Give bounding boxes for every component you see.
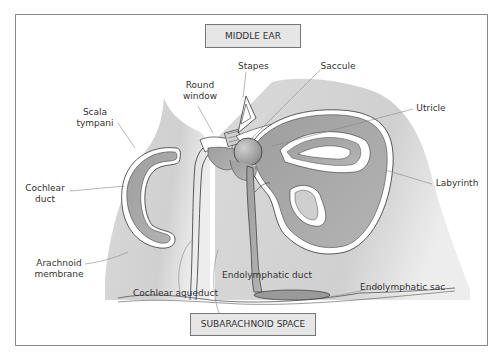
middle-ear-label: MIDDLE EAR — [225, 31, 281, 41]
label-utricle: Utricle — [413, 103, 449, 114]
label-cochlear-aqueduct: Cochlear aqueduct — [133, 288, 213, 299]
label-cochlear-duct: Cochlear duct — [22, 183, 68, 205]
label-stapes: Stapes — [238, 61, 268, 72]
label-endolymphatic-duct: Endolymphatic duct — [222, 270, 312, 281]
endolymphatic-sac-shape — [254, 290, 330, 300]
subarachnoid-space-box: SUBARACHNOID SPACE — [190, 313, 316, 336]
subarachnoid-space-label: SUBARACHNOID SPACE — [201, 319, 305, 329]
middle-ear-box: MIDDLE EAR — [205, 24, 301, 48]
temporal-bone-left — [105, 98, 210, 300]
label-saccule: Saccule — [320, 61, 356, 72]
label-scala-tympani: Scala tympani — [72, 107, 118, 129]
label-round-window: Round window — [180, 80, 220, 102]
label-arachnoid-membrane: Arachnoid membrane — [34, 258, 84, 280]
label-labyrinth: Labyrinth — [434, 178, 480, 189]
label-endolymphatic-sac: Endolymphatic sac — [360, 282, 444, 293]
saccule-sphere — [234, 138, 262, 166]
inner-ear-illustration — [0, 0, 501, 357]
